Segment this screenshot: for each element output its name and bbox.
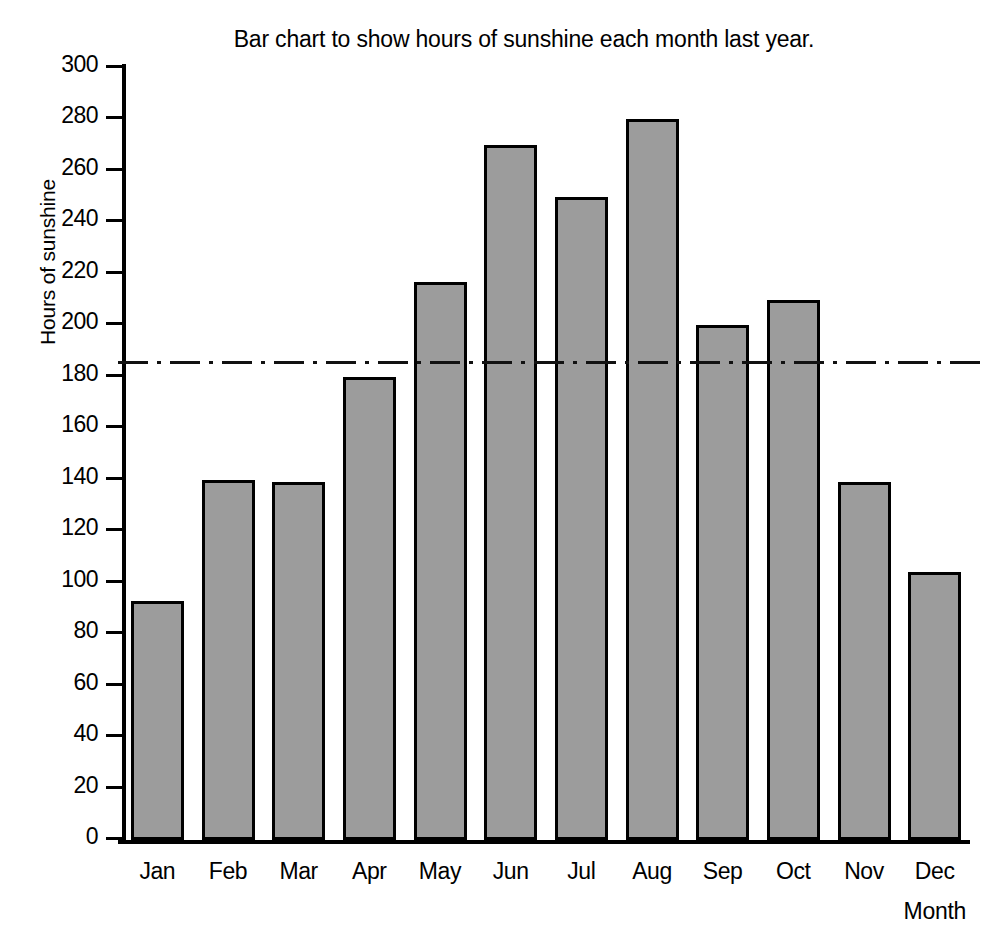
refline-dot — [625, 361, 629, 364]
y-axis-tick: 140 — [106, 477, 122, 480]
y-axis-tick: 80 — [106, 631, 122, 634]
refline-dot — [157, 361, 161, 364]
refline-dash — [638, 361, 668, 364]
y-axis-tick-label: 80 — [38, 617, 98, 644]
y-axis-tick: 20 — [106, 786, 122, 789]
refline-dot — [573, 361, 577, 364]
refline-dot — [937, 361, 941, 364]
refline-dot — [781, 361, 785, 364]
y-axis-tick-label: 100 — [38, 566, 98, 593]
refline-dash — [690, 361, 720, 364]
bar-may — [414, 282, 467, 840]
bar-jan — [131, 601, 184, 840]
refline-dash — [742, 361, 772, 364]
y-axis-tick-label: 0 — [38, 823, 98, 850]
y-axis-tick-label: 240 — [38, 205, 98, 232]
refline-dot — [833, 361, 837, 364]
bar-aug — [626, 119, 679, 840]
refline-dash — [846, 361, 876, 364]
bar-chart-figure: Bar chart to show hours of sunshine each… — [0, 0, 988, 932]
refline-dash — [118, 361, 148, 364]
y-axis-tick-label: 20 — [38, 772, 98, 799]
y-axis-tick-label: 120 — [38, 514, 98, 541]
y-axis-tick: 180 — [106, 374, 122, 377]
x-axis-title: Month — [904, 898, 966, 925]
y-axis-tick: 240 — [106, 219, 122, 222]
refline-dot — [521, 361, 525, 364]
y-axis-tick: 280 — [106, 116, 122, 119]
refline-dash — [482, 361, 512, 364]
y-axis-tick: 160 — [106, 425, 122, 428]
y-axis-tick-label: 140 — [38, 463, 98, 490]
bar-dec — [908, 572, 961, 840]
refline-dash — [170, 361, 200, 364]
refline-dash — [274, 361, 304, 364]
refline-dash — [950, 361, 980, 364]
refline-dot — [261, 361, 265, 364]
bar-apr — [343, 377, 396, 840]
refline-dash — [222, 361, 252, 364]
y-axis-tick-label: 160 — [38, 411, 98, 438]
refline-dot — [729, 361, 733, 364]
y-axis-line — [122, 64, 126, 842]
x-axis-tick-label: Dec — [885, 858, 985, 885]
refline-dash — [430, 361, 460, 364]
refline-dot — [313, 361, 317, 364]
y-axis-tick-label: 180 — [38, 360, 98, 387]
y-axis-tick: 40 — [106, 734, 122, 737]
bar-sep — [696, 325, 749, 840]
y-axis-tick: 200 — [106, 322, 122, 325]
bar-jun — [484, 145, 537, 840]
refline-dash — [534, 361, 564, 364]
y-axis-tick-label: 60 — [38, 669, 98, 696]
refline-dot — [209, 361, 213, 364]
refline-dash — [794, 361, 824, 364]
refline-dash — [326, 361, 356, 364]
y-axis-tick: 100 — [106, 580, 122, 583]
y-axis-tick: 260 — [106, 168, 122, 171]
plot-area: 0204060801001201401601802002202402602803… — [122, 68, 970, 840]
y-axis-tick-label: 300 — [38, 51, 98, 78]
bar-feb — [202, 480, 255, 840]
y-axis-tick: 220 — [106, 271, 122, 274]
refline-dot — [469, 361, 473, 364]
y-axis-tick: 300 — [106, 65, 122, 68]
refline-dash — [586, 361, 616, 364]
y-axis-tick-label: 200 — [38, 308, 98, 335]
y-axis-tick-label: 40 — [38, 720, 98, 747]
refline-dot — [677, 361, 681, 364]
bar-oct — [767, 300, 820, 840]
chart-title: Bar chart to show hours of sunshine each… — [0, 26, 988, 53]
bar-mar — [272, 482, 325, 840]
bar-jul — [555, 197, 608, 840]
y-axis-tick-label: 260 — [38, 154, 98, 181]
y-axis-tick-label: 280 — [38, 102, 98, 129]
y-axis-tick: 0 — [106, 837, 122, 840]
x-axis-line — [118, 840, 970, 844]
refline-dash — [378, 361, 408, 364]
refline-dot — [365, 361, 369, 364]
bar-nov — [838, 482, 891, 840]
y-axis-tick-label: 220 — [38, 257, 98, 284]
refline-dash — [898, 361, 928, 364]
refline-dot — [885, 361, 889, 364]
y-axis-tick: 120 — [106, 528, 122, 531]
y-axis-tick: 60 — [106, 683, 122, 686]
refline-dot — [417, 361, 421, 364]
